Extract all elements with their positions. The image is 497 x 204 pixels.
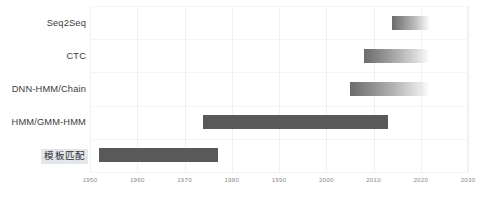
bar-hmm-gmm-hmm[interactable] bbox=[203, 115, 387, 129]
y-axis-label-hmm-gmm-hmm: HMM/GMM-HMM bbox=[12, 116, 86, 128]
x-axis-tick-1980: 1980 bbox=[224, 176, 239, 183]
gridline-h-5 bbox=[90, 172, 468, 173]
gridline-v-1960 bbox=[137, 6, 138, 172]
y-axis-label-ctc: CTC bbox=[66, 50, 86, 62]
gridline-h-0 bbox=[90, 6, 468, 7]
y-axis-label-dnn-hmm-chain: DNN-HMM/Chain bbox=[12, 83, 86, 95]
x-axis-tick-1970: 1970 bbox=[177, 176, 192, 183]
bar-seq2seq[interactable] bbox=[392, 16, 430, 30]
gridline-v-1970 bbox=[185, 6, 186, 172]
x-axis-tick-1950: 1950 bbox=[83, 176, 98, 183]
x-axis-tick-2010: 2010 bbox=[366, 176, 381, 183]
gridline-v-1980 bbox=[232, 6, 233, 172]
gridline-h-4 bbox=[90, 139, 468, 140]
x-axis-tick-1960: 1960 bbox=[130, 176, 145, 183]
x-axis-tick-2030: 2030 bbox=[461, 176, 476, 183]
gridline-v-2000 bbox=[326, 6, 327, 172]
bar-ctc[interactable] bbox=[364, 49, 430, 63]
gridline-h-1 bbox=[90, 39, 468, 40]
x-axis-tick-2000: 2000 bbox=[319, 176, 334, 183]
gridline-v-1990 bbox=[279, 6, 280, 172]
timeline-chart: Seq2SeqCTCDNN-HMM/ChainHMM/GMM-HMM模板匹配 1… bbox=[0, 0, 497, 204]
bar-dnn-hmm-chain[interactable] bbox=[350, 82, 430, 96]
gridline-h-3 bbox=[90, 106, 468, 107]
bar-template-matching[interactable] bbox=[99, 148, 217, 162]
x-axis-labels: 195019601970198019902000201020202030 bbox=[0, 176, 497, 190]
gridline-h-2 bbox=[90, 72, 468, 73]
y-axis-label-seq2seq: Seq2Seq bbox=[47, 17, 86, 29]
x-axis-tick-1990: 1990 bbox=[272, 176, 287, 183]
y-axis-labels: Seq2SeqCTCDNN-HMM/ChainHMM/GMM-HMM模板匹配 bbox=[0, 6, 86, 172]
x-axis-tick-2020: 2020 bbox=[413, 176, 428, 183]
y-axis-label-template-matching: 模板匹配 bbox=[41, 149, 88, 164]
gridline-v-2030 bbox=[468, 6, 469, 172]
gridline-v-1950 bbox=[90, 6, 91, 172]
